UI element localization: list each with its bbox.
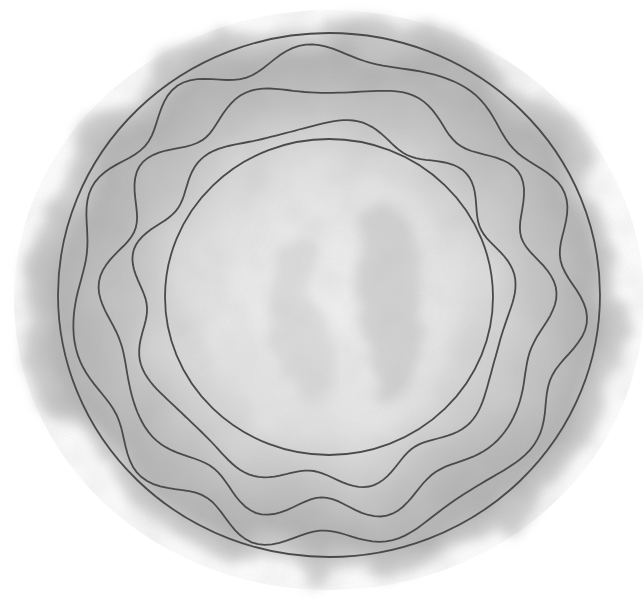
watercolor-ring-illustration bbox=[0, 0, 643, 599]
watercolor-wash bbox=[0, 0, 643, 599]
